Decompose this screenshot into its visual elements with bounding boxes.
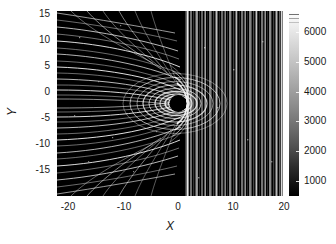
colorbar-tickmark	[296, 92, 299, 93]
xtick-label: -10	[117, 202, 131, 212]
colorbar-tickmark	[296, 181, 299, 182]
xtick-label: 20	[278, 202, 289, 212]
colorbar-tick-label: 6000	[304, 27, 326, 37]
colorbar-tick-label: 3000	[304, 116, 326, 126]
colorbar-tickmark	[296, 32, 299, 33]
x-axis-title: X	[166, 220, 174, 232]
figure-container: 15 10 5 0 -5 -10 -15 -20 -10 0 10 20 Y X	[0, 0, 336, 244]
ytick-label: 0	[28, 87, 50, 97]
colorbar-tickmark	[296, 62, 299, 63]
ytick-label: 10	[28, 35, 50, 45]
ytick-label: -10	[24, 139, 50, 149]
ytick-label: 5	[28, 61, 50, 71]
colorbar-tick-label: 2000	[304, 146, 326, 156]
xtick-label: -20	[61, 202, 75, 212]
colorbar	[289, 11, 299, 196]
colorbar-gradient	[289, 11, 299, 196]
colorbar-tickmark	[296, 151, 299, 152]
xtick-label: 10	[227, 202, 238, 212]
ytick-label: 15	[28, 9, 50, 19]
ytick-label: -5	[28, 113, 50, 123]
plot-area	[57, 11, 283, 196]
xtick-label: 0	[175, 202, 181, 212]
y-axis-title: Y	[6, 108, 18, 116]
colorbar-tick-label: 4000	[304, 87, 326, 97]
colorbar-tickmark	[296, 121, 299, 122]
ytick-label: -15	[24, 165, 50, 175]
streamline-field-plot	[57, 11, 283, 196]
colorbar-tick-label: 1000	[304, 176, 326, 186]
colorbar-tick-label: 5000	[304, 57, 326, 67]
